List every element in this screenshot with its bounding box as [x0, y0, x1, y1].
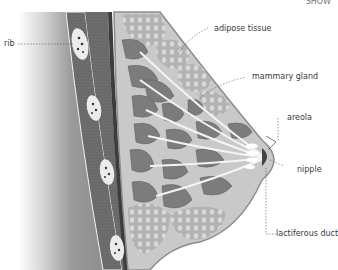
breast-tissue: [114, 12, 274, 270]
label-lactiferous-duct: lactiferous duct: [276, 229, 338, 239]
chest-wall: [18, 12, 128, 270]
label-mammary-gland: mammary gland: [252, 72, 318, 82]
label-rib: rib: [4, 39, 15, 49]
corner-text: SHOW: [306, 0, 331, 6]
label-areola: areola: [287, 113, 312, 123]
label-adipose-tissue: adipose tissue: [214, 24, 272, 34]
label-nipple: nipple: [297, 165, 322, 175]
